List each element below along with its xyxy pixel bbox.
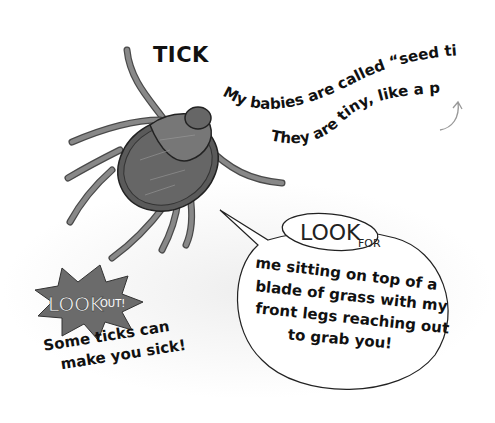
look-out-badge-look: LOOK	[48, 292, 104, 316]
illustration-page: TICK My babies are called “seed ticks.” …	[0, 0, 495, 423]
look-out-badge-out: OUT!	[100, 298, 125, 309]
